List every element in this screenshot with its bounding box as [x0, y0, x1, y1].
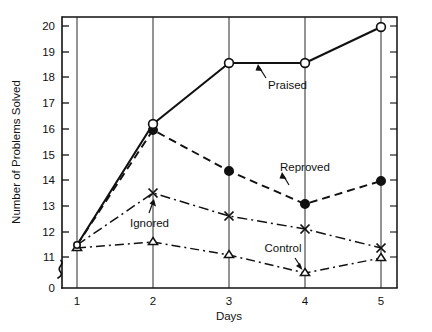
reproved-point-day4 — [301, 200, 310, 209]
reproved-point-day3 — [225, 167, 234, 176]
reproved-point-day5 — [377, 177, 386, 186]
y-tick-label-18: 18 — [42, 71, 55, 83]
control-point-day5 — [376, 254, 385, 261]
series-reproved — [77, 126, 385, 245]
y-axis-ticks — [62, 26, 69, 257]
x-axis-title: Days — [216, 310, 242, 322]
series-praised — [77, 23, 385, 245]
y-axis-title: Number of Problems Solved — [10, 80, 22, 224]
plot-frame — [62, 17, 397, 288]
y-tick-label-11: 11 — [43, 251, 55, 263]
y-tick-label-0: 0 — [49, 282, 55, 294]
annotation-ignored: Ignored — [130, 199, 169, 229]
x-tick-label-5: 5 — [378, 295, 384, 307]
gridlines — [77, 17, 381, 288]
control-point-day3 — [224, 251, 233, 258]
y-tick-label-13: 13 — [42, 200, 55, 212]
x-tick-label-2: 2 — [150, 295, 156, 307]
series-ignored — [77, 189, 386, 253]
y-tick-label-16: 16 — [42, 123, 55, 135]
y-tick-label-17: 17 — [42, 97, 55, 109]
day1-convergence-point — [74, 242, 80, 248]
ignored-label: Ignored — [130, 217, 169, 229]
y-tick-label-20: 20 — [42, 20, 55, 32]
annotation-control: Control — [264, 242, 302, 270]
praised-label: Praised — [268, 79, 307, 91]
y-tick-label-15: 15 — [42, 149, 55, 161]
control-leader-arrow — [296, 263, 303, 270]
x-tick-label-4: 4 — [302, 295, 309, 307]
y-tick-label-12: 12 — [42, 226, 55, 238]
praised-point-day4 — [301, 59, 310, 68]
praised-point-day3 — [225, 59, 234, 68]
praised-point-day5 — [377, 23, 386, 32]
chart-figure: 20 19 18 17 16 15 14 13 12 11 0 1 2 3 4 … — [0, 0, 432, 332]
praised-leader-arrow — [256, 64, 263, 71]
y-tick-label-14: 14 — [42, 174, 55, 186]
y-tick-label-19: 19 — [42, 46, 55, 58]
x-tick-label-3: 3 — [226, 295, 232, 307]
x-tick-label-1: 1 — [74, 295, 80, 307]
control-point-day2 — [148, 238, 157, 245]
line-chart: 20 19 18 17 16 15 14 13 12 11 0 1 2 3 4 … — [0, 0, 432, 332]
reproved-label: Reproved — [280, 161, 330, 173]
right-axis-ticks — [390, 26, 397, 257]
praised-point-day2 — [149, 120, 158, 129]
annotation-praised: Praised — [256, 64, 308, 91]
reproved-leader-arrow — [280, 172, 287, 179]
control-label: Control — [264, 242, 301, 254]
